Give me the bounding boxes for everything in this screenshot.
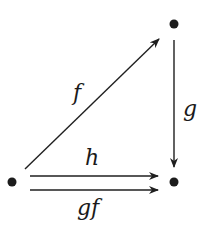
commutative-diagram: f g h gf	[0, 0, 204, 225]
label-f: f	[71, 80, 85, 105]
label-h: h	[85, 145, 99, 170]
node-top-right	[170, 20, 179, 29]
label-gf: gf	[77, 195, 103, 220]
label-g: g	[183, 96, 197, 121]
node-bottom-left	[8, 178, 17, 187]
node-bottom-right	[170, 178, 179, 187]
